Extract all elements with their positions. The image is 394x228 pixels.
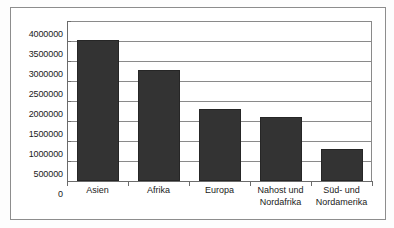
- bar-chart-figure: 4000000350000030000002500000200000015000…: [0, 0, 394, 228]
- y-axis-tick-label: 2000000: [29, 109, 63, 119]
- x-axis-category-label: Asien: [67, 184, 128, 196]
- bar: [260, 117, 302, 181]
- x-axis-category-label: Europa: [189, 184, 250, 196]
- y-axis-tick-label: 1500000: [29, 129, 63, 139]
- y-axis-tick-mark: [67, 81, 71, 82]
- y-axis-tick-mark: [67, 181, 71, 182]
- y-axis-tick-label: 500000: [34, 169, 63, 179]
- x-axis-tick-mark: [372, 181, 373, 186]
- chart-frame: 4000000350000030000002500000200000015000…: [10, 7, 386, 220]
- y-axis-tick-mark: [67, 41, 71, 42]
- y-axis-tick-label: 1000000: [29, 149, 63, 159]
- bar: [77, 40, 119, 181]
- x-axis-category-label: Afrika: [128, 184, 189, 196]
- y-axis-tick-mark: [67, 121, 71, 122]
- y-axis-tick-label: 3000000: [29, 69, 63, 79]
- y-axis-tick-mark: [67, 141, 71, 142]
- y-axis-tick-label: 0: [58, 189, 63, 199]
- bar: [199, 109, 241, 181]
- x-axis-category-labels: AsienAfrikaEuropaNahost und NordafrikaSü…: [67, 184, 372, 220]
- y-axis-tick-mark: [67, 21, 71, 22]
- y-axis-tick-mark: [67, 61, 71, 62]
- y-axis-tick-mark: [67, 101, 71, 102]
- y-axis-tick-label: 4000000: [29, 29, 63, 39]
- x-axis-category-label: Nahost und Nordafrika: [250, 184, 311, 208]
- gridline: [67, 181, 372, 182]
- bars-layer: [67, 21, 372, 181]
- plot-area: [67, 21, 372, 181]
- y-axis-tick-labels: 4000000350000030000002500000200000015000…: [11, 21, 63, 181]
- y-axis-tick-label: 3500000: [29, 49, 63, 59]
- bar: [138, 70, 180, 181]
- y-axis-tick-label: 2500000: [29, 89, 63, 99]
- bar: [321, 149, 363, 181]
- x-axis-category-label: Süd- und Nordamerika: [311, 184, 372, 208]
- y-axis-tick-mark: [67, 161, 71, 162]
